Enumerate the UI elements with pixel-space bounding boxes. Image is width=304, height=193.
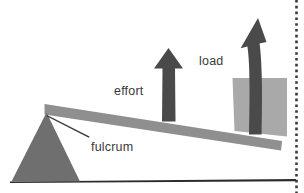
diagram-canvas: effort load fulcrum: [0, 0, 304, 193]
effort-label: effort: [114, 84, 144, 98]
fulcrum-label: fulcrum: [91, 140, 133, 154]
load-label: load: [199, 54, 223, 68]
lever-diagram: effort load fulcrum: [0, 0, 304, 193]
effort-arrow: [154, 48, 183, 122]
fulcrum-triangle: [12, 113, 81, 182]
